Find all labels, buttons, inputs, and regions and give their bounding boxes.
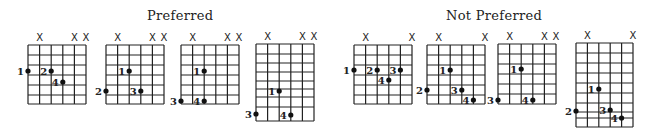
muted-string-icon: X <box>630 30 637 41</box>
muted-string-icon: X <box>161 32 168 43</box>
chord-diagram-preferred-2: XXX123 <box>95 32 168 104</box>
finger-dot <box>459 87 464 92</box>
muted-string-icon: X <box>482 32 489 43</box>
muted-string-icon: X <box>264 31 271 42</box>
finger-number: 3 <box>451 85 458 96</box>
finger-dot <box>573 108 578 113</box>
finger-dot <box>178 98 183 103</box>
finger-number: 4 <box>611 113 618 124</box>
finger-dot <box>471 97 476 102</box>
muted-string-icon: X <box>189 32 196 43</box>
chord-diagram-not-preferred-7: XXX134 <box>487 31 560 106</box>
finger-number: 1 <box>268 86 275 97</box>
finger-number: 3 <box>389 65 396 76</box>
finger-number: 3 <box>170 96 177 107</box>
chord-diagram-preferred-3: XXX134 <box>170 32 243 107</box>
finger-dot <box>202 98 207 103</box>
chord-diagram-not-preferred-6: XX1234 <box>416 32 489 106</box>
chord-diagram-preferred-4: XXX134 <box>245 31 318 121</box>
finger-number: 1 <box>193 66 200 77</box>
muted-string-icon: X <box>36 32 43 43</box>
finger-dot <box>25 68 30 73</box>
finger-dot <box>103 88 108 93</box>
finger-dot <box>127 68 132 73</box>
finger-dot <box>288 112 293 117</box>
finger-dot <box>49 68 54 73</box>
finger-dot <box>448 67 453 72</box>
finger-number: 4 <box>193 96 200 107</box>
chord-diagram-not-preferred-8: XX1234 <box>565 30 637 127</box>
finger-number: 3 <box>130 86 137 97</box>
muted-string-icon: X <box>311 31 318 42</box>
finger-number: 1 <box>343 65 350 76</box>
finger-dot <box>495 97 500 102</box>
finger-dot <box>253 111 258 116</box>
muted-string-icon: X <box>435 32 442 43</box>
finger-number: 2 <box>40 66 47 77</box>
finger-dot <box>351 67 356 72</box>
finger-dot <box>424 87 429 92</box>
finger-dot <box>138 88 143 93</box>
finger-number: 2 <box>416 85 423 96</box>
muted-string-icon: X <box>71 32 78 43</box>
muted-string-icon: X <box>236 32 243 43</box>
finger-number: 1 <box>588 84 595 95</box>
muted-string-icon: X <box>83 32 90 43</box>
finger-number: 1 <box>118 66 125 77</box>
muted-string-icon: X <box>506 31 513 42</box>
muted-string-icon: X <box>553 31 560 42</box>
muted-string-icon: X <box>149 32 156 43</box>
muted-string-icon: X <box>541 31 548 42</box>
finger-number: 2 <box>565 106 572 117</box>
muted-string-icon: X <box>362 32 369 43</box>
finger-number: 4 <box>52 77 59 88</box>
finger-number: 1 <box>510 64 517 75</box>
finger-number: 2 <box>95 86 102 97</box>
finger-dot <box>530 97 535 102</box>
finger-dot <box>375 67 380 72</box>
finger-dot <box>277 88 282 93</box>
finger-number: 4 <box>522 95 529 106</box>
chord-diagrams: XXX124XXX123XXX134XXX134XX1234XX1234XXX1… <box>0 0 649 135</box>
finger-number: 4 <box>280 110 287 121</box>
finger-dot <box>596 86 601 91</box>
finger-number: 3 <box>245 109 252 120</box>
finger-number: 3 <box>599 105 606 116</box>
finger-number: 2 <box>366 65 373 76</box>
finger-dot <box>519 66 524 71</box>
finger-dot <box>202 68 207 73</box>
chord-diagram-not-preferred-5: XX1234 <box>343 32 416 104</box>
muted-string-icon: X <box>114 32 121 43</box>
muted-string-icon: X <box>584 30 591 41</box>
finger-dot <box>619 115 624 120</box>
finger-number: 1 <box>17 66 24 77</box>
muted-string-icon: X <box>409 32 416 43</box>
finger-number: 4 <box>462 95 469 106</box>
finger-dot <box>60 79 65 84</box>
finger-number: 1 <box>439 65 446 76</box>
finger-number: 4 <box>378 75 385 86</box>
finger-number: 3 <box>487 95 494 106</box>
finger-dot <box>386 77 391 82</box>
finger-dot <box>398 67 403 72</box>
muted-string-icon: X <box>224 32 231 43</box>
muted-string-icon: X <box>299 31 306 42</box>
chord-diagram-preferred-1: XXX124 <box>17 32 90 104</box>
